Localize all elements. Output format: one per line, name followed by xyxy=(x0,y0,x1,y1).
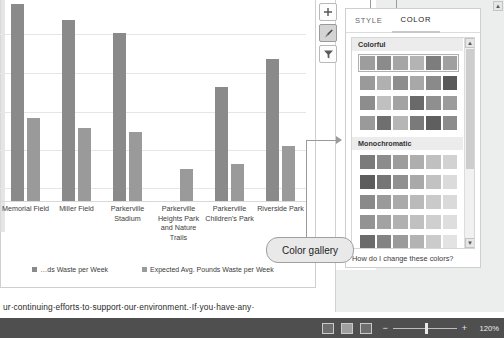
color-swatch[interactable] xyxy=(443,116,458,130)
window-scroll-up-button[interactable]: ▲ xyxy=(493,1,503,11)
zoom-out-button[interactable]: − xyxy=(382,324,387,333)
chart-styles-button[interactable] xyxy=(319,24,337,42)
zoom-track[interactable] xyxy=(393,328,457,329)
bar-series-2[interactable] xyxy=(231,164,244,201)
pane-tab-style[interactable]: STYLE xyxy=(346,9,392,32)
color-scheme-option[interactable] xyxy=(358,233,459,248)
web-layout-view-button[interactable] xyxy=(360,323,372,334)
chart-elements-button[interactable] xyxy=(319,3,337,21)
color-swatch[interactable] xyxy=(377,56,392,70)
color-scheme-option[interactable] xyxy=(358,54,459,72)
color-swatch[interactable] xyxy=(393,175,408,189)
bar-group[interactable] xyxy=(51,0,102,201)
color-swatch[interactable] xyxy=(377,76,392,90)
color-scheme-option[interactable] xyxy=(358,94,459,112)
color-scheme-option[interactable] xyxy=(358,74,459,92)
bar-group[interactable] xyxy=(255,0,306,201)
color-swatch[interactable] xyxy=(360,56,375,70)
bar-group[interactable] xyxy=(204,0,255,201)
read-mode-view-button[interactable] xyxy=(322,323,334,334)
color-swatch[interactable] xyxy=(377,215,392,229)
color-swatch[interactable] xyxy=(360,96,375,110)
color-swatch[interactable] xyxy=(360,195,375,209)
bar-series-2[interactable] xyxy=(180,169,193,201)
color-swatch[interactable] xyxy=(443,175,458,189)
bar-series-2[interactable] xyxy=(129,132,142,201)
color-swatch[interactable] xyxy=(426,195,441,209)
zoom-level-label[interactable]: 120% xyxy=(473,324,499,333)
color-swatch[interactable] xyxy=(360,155,375,169)
color-swatch[interactable] xyxy=(426,235,441,248)
color-swatch[interactable] xyxy=(393,215,408,229)
color-swatch[interactable] xyxy=(426,116,441,130)
bar-series-2[interactable] xyxy=(27,118,40,201)
color-swatch[interactable] xyxy=(393,76,408,90)
color-swatch[interactable] xyxy=(426,96,441,110)
color-swatch[interactable] xyxy=(410,235,425,248)
color-swatch[interactable] xyxy=(443,76,458,90)
color-swatch[interactable] xyxy=(426,215,441,229)
color-swatch[interactable] xyxy=(360,76,375,90)
color-gallery-scrollbar[interactable]: ▲ ▼ xyxy=(464,38,474,248)
color-swatch[interactable] xyxy=(360,116,375,130)
color-swatch[interactable] xyxy=(443,96,458,110)
color-swatch[interactable] xyxy=(426,56,441,70)
color-swatch[interactable] xyxy=(410,175,425,189)
color-swatch[interactable] xyxy=(410,155,425,169)
color-swatch[interactable] xyxy=(443,195,458,209)
color-swatch[interactable] xyxy=(360,175,375,189)
color-swatch[interactable] xyxy=(393,155,408,169)
color-swatch[interactable] xyxy=(377,96,392,110)
bar-group[interactable] xyxy=(153,0,204,201)
scrollbar-thumb[interactable] xyxy=(466,49,474,169)
bar-series-1[interactable] xyxy=(113,33,126,201)
color-swatch[interactable] xyxy=(377,155,392,169)
color-swatch[interactable] xyxy=(410,76,425,90)
bar-series-1[interactable] xyxy=(11,4,24,201)
bar-group[interactable] xyxy=(102,0,153,201)
chart-filters-button[interactable] xyxy=(319,45,337,63)
color-swatch[interactable] xyxy=(410,195,425,209)
how-do-i-change-colors-link[interactable]: How do I change these colors? xyxy=(352,254,453,263)
color-swatch[interactable] xyxy=(393,96,408,110)
color-swatch[interactable] xyxy=(426,76,441,90)
zoom-in-button[interactable]: + xyxy=(462,324,467,333)
color-scheme-option[interactable] xyxy=(358,114,459,132)
bar-group[interactable] xyxy=(0,0,51,201)
bar-series-1[interactable] xyxy=(266,59,279,201)
color-scheme-option[interactable] xyxy=(358,153,459,171)
color-swatch[interactable] xyxy=(426,155,441,169)
print-layout-view-button[interactable] xyxy=(341,323,353,334)
color-swatch[interactable] xyxy=(410,116,425,130)
color-swatch[interactable] xyxy=(377,235,392,248)
color-swatch[interactable] xyxy=(360,235,375,248)
color-swatch[interactable] xyxy=(393,116,408,130)
chart-legend[interactable]: …ds Waste per Week Expected Avg. Pounds … xyxy=(0,262,306,276)
color-swatch[interactable] xyxy=(377,116,392,130)
color-swatch[interactable] xyxy=(410,56,425,70)
color-swatch[interactable] xyxy=(410,215,425,229)
bar-series-1[interactable] xyxy=(62,20,75,201)
color-swatch[interactable] xyxy=(377,195,392,209)
color-swatch[interactable] xyxy=(393,195,408,209)
zoom-slider[interactable]: − + xyxy=(382,324,467,333)
color-swatch[interactable] xyxy=(443,155,458,169)
bar-series-2[interactable] xyxy=(282,146,295,201)
color-swatch[interactable] xyxy=(443,215,458,229)
color-swatch[interactable] xyxy=(393,56,408,70)
scroll-up-arrow-icon[interactable]: ▲ xyxy=(465,38,475,48)
color-swatch[interactable] xyxy=(426,175,441,189)
zoom-thumb[interactable] xyxy=(425,323,428,334)
color-swatch[interactable] xyxy=(410,96,425,110)
bar-series-1[interactable] xyxy=(215,87,228,201)
color-swatch[interactable] xyxy=(443,56,458,70)
color-swatch[interactable] xyxy=(377,175,392,189)
scroll-down-arrow-icon[interactable]: ▼ xyxy=(465,238,475,248)
color-swatch[interactable] xyxy=(393,235,408,248)
color-swatch[interactable] xyxy=(443,235,458,248)
pane-tab-color[interactable]: COLOR xyxy=(392,8,441,33)
color-swatch[interactable] xyxy=(360,215,375,229)
color-gallery[interactable]: ColorfulMonochromatic ▲ ▼ xyxy=(351,37,475,249)
color-scheme-option[interactable] xyxy=(358,173,459,191)
color-scheme-option[interactable] xyxy=(358,213,459,231)
